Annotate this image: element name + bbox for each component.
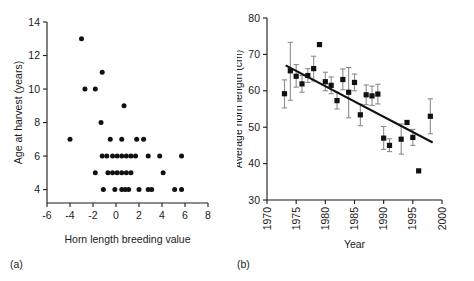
data-point (110, 170, 115, 175)
y-tick-label: 30 (248, 194, 260, 206)
y-tick-label: 40 (248, 157, 260, 169)
data-point (100, 154, 105, 159)
data-point (134, 137, 139, 142)
x-axis-title: Horn length breeding value (64, 233, 190, 245)
y-tick-label: 12 (28, 49, 40, 61)
data-point (101, 187, 106, 192)
data-point (79, 36, 84, 41)
data-point (369, 93, 374, 98)
data-point (346, 90, 351, 95)
data-point (141, 137, 146, 142)
data-point (119, 137, 124, 142)
x-tick-label: -6 (42, 209, 51, 221)
data-point (179, 187, 184, 192)
scatter-chart-a: 468101214-6-4-202468Horn length breeding… (0, 0, 237, 281)
x-tick-label: -2 (88, 209, 97, 221)
data-point (294, 74, 299, 79)
data-point (124, 170, 129, 175)
data-point (128, 154, 133, 159)
x-tick-label: 2 (136, 209, 142, 221)
data-point (358, 112, 363, 117)
data-point (157, 154, 162, 159)
y-tick-label: 6 (34, 150, 40, 162)
panel-label: (a) (10, 258, 23, 270)
axis-lines (47, 22, 208, 203)
x-tick-label: 0 (113, 209, 119, 221)
x-tick-label: -4 (65, 209, 74, 221)
y-tick-label: 70 (248, 48, 260, 60)
panel-label: (b) (237, 258, 250, 270)
x-axis-title: Year (344, 238, 366, 250)
data-point (172, 187, 177, 192)
y-axis-title: Age at harvest (years) (12, 61, 24, 164)
y-tick-label: 8 (34, 116, 40, 128)
data-point (381, 136, 386, 141)
data-point (329, 83, 334, 88)
data-point (115, 154, 120, 159)
data-point (104, 154, 109, 159)
data-point (288, 68, 293, 73)
data-point (387, 143, 392, 148)
data-point (311, 66, 316, 71)
data-point (179, 154, 184, 159)
data-point (105, 170, 110, 175)
data-point (334, 98, 339, 103)
data-point (364, 92, 369, 97)
y-tick-label: 14 (28, 16, 40, 28)
data-point (161, 170, 166, 175)
data-point (323, 79, 328, 84)
data-point (282, 91, 287, 96)
x-tick-label: 6 (182, 209, 188, 221)
x-tick-label: 1985 (348, 207, 360, 231)
data-point (149, 187, 154, 192)
data-point (416, 168, 421, 173)
scatter-chart-b: 3040506070801970197519801985199019952000… (237, 0, 474, 281)
data-point (399, 137, 404, 142)
data-point (128, 170, 133, 175)
data-point (126, 187, 131, 192)
x-tick-label: 1995 (406, 207, 418, 231)
data-point (305, 73, 310, 78)
data-point (82, 87, 87, 92)
y-axis-title: Average horn length (cm) (237, 50, 244, 168)
data-point (119, 154, 124, 159)
x-tick-label: 1990 (377, 207, 389, 231)
y-tick-label: 80 (248, 12, 260, 24)
data-point (122, 103, 127, 108)
data-point (133, 154, 138, 159)
data-point (119, 170, 124, 175)
data-point (115, 170, 120, 175)
figure-container: 468101214-6-4-202468Horn length breeding… (0, 0, 474, 281)
data-point (299, 81, 304, 86)
data-point (340, 77, 345, 82)
data-point (146, 154, 151, 159)
y-tick-label: 50 (248, 121, 260, 133)
y-tick-label: 4 (34, 183, 40, 195)
data-point (124, 154, 129, 159)
data-point (404, 120, 409, 125)
data-point (317, 42, 322, 47)
data-point (100, 70, 105, 75)
y-tick-label: 10 (28, 83, 40, 95)
data-point (352, 80, 357, 85)
data-point (112, 187, 117, 192)
data-point (68, 137, 73, 142)
x-tick-label: 1980 (319, 207, 331, 231)
axis-lines (267, 18, 442, 200)
y-tick-label: 60 (248, 84, 260, 96)
x-tick-label: 8 (205, 209, 211, 221)
data-point (93, 170, 98, 175)
x-tick-label: 1975 (290, 207, 302, 231)
data-point (375, 91, 380, 96)
data-point (93, 87, 98, 92)
data-point (108, 137, 113, 142)
panel-b: 3040506070801970197519801985199019952000… (237, 0, 474, 281)
data-point (410, 135, 415, 140)
x-tick-label: 1970 (261, 207, 273, 231)
data-point (137, 187, 142, 192)
x-tick-label: 4 (159, 209, 165, 221)
data-point (428, 114, 433, 119)
data-point (99, 120, 104, 125)
panel-a: 468101214-6-4-202468Horn length breeding… (0, 0, 237, 281)
x-tick-label: 2000 (436, 207, 448, 231)
